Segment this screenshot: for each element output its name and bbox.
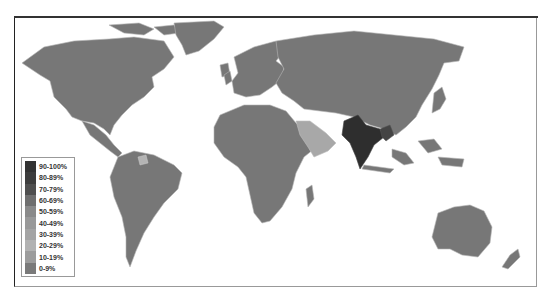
legend-label: 60-69%: [39, 195, 63, 206]
legend-item: 50-59%: [25, 206, 74, 217]
north-america: [22, 37, 174, 135]
south-america: [110, 151, 182, 267]
legend-item: 40-49%: [25, 217, 74, 228]
greenland: [174, 21, 224, 55]
asia: [276, 31, 464, 135]
legend-item: 60-69%: [25, 195, 74, 206]
legend-label: 80-89%: [39, 172, 63, 183]
legend-item: 80-89%: [25, 172, 74, 183]
legend-item: 70-79%: [25, 184, 74, 195]
legend-item: 90-100%: [25, 161, 74, 172]
legend-label: 10-19%: [39, 252, 63, 263]
legend-item: 30-39%: [25, 229, 74, 240]
legend-label: 40-49%: [39, 218, 63, 229]
legend-swatch: [25, 184, 36, 195]
map-legend: 90-100% 80-89% 70-79% 60-69% 50-59% 40-4…: [21, 157, 75, 277]
legend-label: 30-39%: [39, 229, 63, 240]
legend-label: 90-100%: [39, 161, 67, 172]
legend-swatch: [25, 206, 36, 217]
legend-swatch: [25, 229, 36, 240]
legend-label: 70-79%: [39, 184, 63, 195]
europe: [232, 41, 284, 97]
guyana-suriname: [138, 155, 148, 165]
legend-label: 50-59%: [39, 206, 63, 217]
legend-item: 20-29%: [25, 240, 74, 251]
legend-label: 20-29%: [39, 240, 63, 251]
legend-swatch: [25, 195, 36, 206]
legend-label: 0-9%: [39, 263, 55, 274]
legend-swatch: [25, 161, 36, 172]
legend-swatch: [25, 240, 36, 251]
legend-item: 0-9%: [25, 263, 74, 274]
world-map: [14, 17, 537, 287]
legend-swatch: [25, 263, 36, 274]
legend-swatch: [25, 172, 36, 183]
legend-swatch: [25, 251, 36, 262]
legend-swatch: [25, 217, 36, 228]
legend-item: 10-19%: [25, 251, 74, 262]
australia: [432, 205, 492, 257]
